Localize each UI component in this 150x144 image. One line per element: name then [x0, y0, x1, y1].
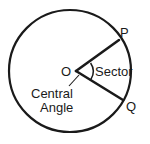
label-point-q: Q — [126, 99, 136, 114]
diagram-canvas: O P Q Sector Central Angle — [0, 0, 150, 144]
label-sector: Sector — [95, 64, 133, 79]
label-central-angle-line1: Central — [31, 86, 73, 101]
circle-sector-figure: O P Q Sector Central Angle — [0, 0, 150, 144]
central-angle-arc — [91, 63, 94, 79]
label-center-o: O — [61, 64, 71, 79]
label-central-angle-line2: Angle — [40, 100, 73, 115]
label-point-p: P — [120, 25, 129, 40]
